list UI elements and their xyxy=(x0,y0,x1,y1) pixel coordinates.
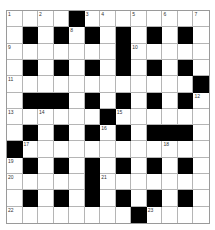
grid-cell[interactable] xyxy=(69,125,85,141)
grid-cell[interactable] xyxy=(162,76,178,92)
grid-cell[interactable] xyxy=(69,44,85,60)
grid-cell[interactable] xyxy=(54,44,70,60)
grid-cell[interactable] xyxy=(147,109,163,125)
grid-cell[interactable] xyxy=(54,109,70,125)
grid-cell[interactable] xyxy=(116,11,132,27)
grid-cell[interactable] xyxy=(193,207,209,223)
grid-cell[interactable] xyxy=(193,158,209,174)
grid-cell[interactable]: 22 xyxy=(7,207,23,223)
grid-cell[interactable] xyxy=(193,44,209,60)
grid-cell[interactable]: 16 xyxy=(100,125,116,141)
grid-cell[interactable] xyxy=(38,190,54,206)
grid-cell[interactable] xyxy=(23,11,39,27)
grid-cell[interactable] xyxy=(193,109,209,125)
grid-cell[interactable] xyxy=(54,207,70,223)
grid-cell[interactable] xyxy=(100,44,116,60)
grid-cell[interactable] xyxy=(23,44,39,60)
grid-cell[interactable] xyxy=(23,109,39,125)
grid-cell[interactable] xyxy=(7,190,23,206)
grid-cell[interactable] xyxy=(38,60,54,76)
grid-cell[interactable]: 21 xyxy=(100,174,116,190)
grid-cell[interactable]: 18 xyxy=(162,141,178,157)
grid-cell[interactable]: 2 xyxy=(38,11,54,27)
grid-cell[interactable] xyxy=(131,76,147,92)
grid-cell[interactable] xyxy=(54,174,70,190)
grid-cell[interactable] xyxy=(69,158,85,174)
grid-cell[interactable] xyxy=(38,125,54,141)
grid-cell[interactable] xyxy=(38,44,54,60)
grid-cell[interactable] xyxy=(162,109,178,125)
grid-cell[interactable]: 11 xyxy=(7,76,23,92)
grid-cell[interactable] xyxy=(100,60,116,76)
grid-cell[interactable] xyxy=(116,76,132,92)
grid-cell[interactable] xyxy=(69,109,85,125)
grid-cell[interactable] xyxy=(178,76,194,92)
grid-cell[interactable]: 14 xyxy=(38,109,54,125)
grid-cell[interactable]: 17 xyxy=(23,141,39,157)
grid-cell[interactable] xyxy=(54,141,70,157)
grid-cell[interactable] xyxy=(85,207,101,223)
grid-cell[interactable] xyxy=(116,141,132,157)
grid-cell[interactable] xyxy=(178,109,194,125)
grid-cell[interactable] xyxy=(162,207,178,223)
grid-cell[interactable] xyxy=(162,190,178,206)
grid-cell[interactable] xyxy=(85,76,101,92)
grid-cell[interactable] xyxy=(131,60,147,76)
grid-cell[interactable] xyxy=(131,93,147,109)
grid-cell[interactable] xyxy=(23,174,39,190)
grid-cell[interactable] xyxy=(85,109,101,125)
grid-cell[interactable] xyxy=(193,27,209,43)
grid-cell[interactable] xyxy=(116,207,132,223)
grid-cell[interactable] xyxy=(100,93,116,109)
grid-cell[interactable] xyxy=(193,190,209,206)
grid-cell[interactable]: 9 xyxy=(7,44,23,60)
grid-cell[interactable]: 15 xyxy=(116,109,132,125)
grid-cell[interactable] xyxy=(147,174,163,190)
grid-cell[interactable] xyxy=(7,27,23,43)
grid-cell[interactable] xyxy=(69,93,85,109)
grid-cell[interactable] xyxy=(131,109,147,125)
grid-cell[interactable] xyxy=(69,60,85,76)
grid-cell[interactable] xyxy=(162,60,178,76)
grid-cell[interactable] xyxy=(193,141,209,157)
grid-cell[interactable] xyxy=(193,125,209,141)
grid-cell[interactable] xyxy=(162,44,178,60)
grid-cell[interactable] xyxy=(23,207,39,223)
grid-cell[interactable] xyxy=(54,11,70,27)
grid-cell[interactable] xyxy=(178,207,194,223)
grid-cell[interactable] xyxy=(69,190,85,206)
grid-cell[interactable] xyxy=(193,60,209,76)
grid-cell[interactable] xyxy=(178,11,194,27)
grid-cell[interactable] xyxy=(147,76,163,92)
grid-cell[interactable] xyxy=(178,44,194,60)
grid-cell[interactable]: 1 xyxy=(7,11,23,27)
grid-cell[interactable] xyxy=(38,174,54,190)
grid-cell[interactable]: 23 xyxy=(147,207,163,223)
grid-cell[interactable] xyxy=(38,207,54,223)
grid-cell[interactable] xyxy=(131,174,147,190)
grid-cell[interactable] xyxy=(85,141,101,157)
grid-cell[interactable] xyxy=(69,207,85,223)
grid-cell[interactable] xyxy=(38,76,54,92)
grid-cell[interactable] xyxy=(193,174,209,190)
grid-cell[interactable] xyxy=(162,174,178,190)
grid-cell[interactable] xyxy=(178,174,194,190)
grid-cell[interactable] xyxy=(7,125,23,141)
grid-cell[interactable] xyxy=(162,158,178,174)
grid-cell[interactable]: 10 xyxy=(131,44,147,60)
grid-cell[interactable] xyxy=(131,190,147,206)
grid-cell[interactable]: 6 xyxy=(162,11,178,27)
grid-cell[interactable] xyxy=(54,76,70,92)
grid-cell[interactable] xyxy=(69,141,85,157)
grid-cell[interactable] xyxy=(131,125,147,141)
grid-cell[interactable]: 19 xyxy=(7,158,23,174)
grid-cell[interactable] xyxy=(7,60,23,76)
grid-cell[interactable] xyxy=(38,27,54,43)
grid-cell[interactable] xyxy=(131,158,147,174)
grid-cell[interactable] xyxy=(69,174,85,190)
grid-cell[interactable] xyxy=(131,27,147,43)
grid-cell[interactable] xyxy=(100,207,116,223)
grid-cell[interactable] xyxy=(116,174,132,190)
grid-cell[interactable] xyxy=(147,44,163,60)
grid-cell[interactable] xyxy=(131,141,147,157)
